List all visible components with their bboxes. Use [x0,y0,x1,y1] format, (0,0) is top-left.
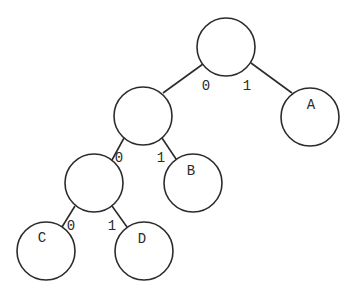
label-c: C [38,230,46,246]
edge-label-n2-left: 0 [67,218,75,234]
nodes [17,18,339,280]
edge-label-root-right: 1 [243,78,251,94]
label-a: A [307,97,316,113]
binary-tree-diagram: A B C D 0 1 0 1 0 1 [0,0,356,299]
edge-root-to-a [251,63,292,93]
edge-label-n1-right: 1 [157,150,165,166]
edge-root-to-n1 [163,64,203,93]
edge-label-root-left: 0 [202,78,210,94]
node-internal-1 [114,87,172,145]
label-b: B [187,163,195,179]
node-root [197,18,255,76]
edge-label-n1-left: 0 [115,150,123,166]
label-d: D [138,231,146,247]
edge-label-n2-right: 1 [108,218,116,234]
